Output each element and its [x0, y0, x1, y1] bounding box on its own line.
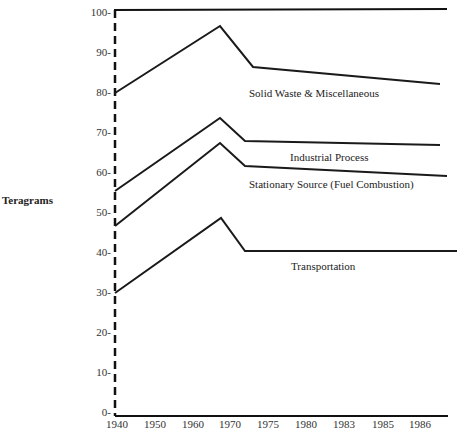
y-tick-90: 90- [71, 46, 111, 58]
y-tick-40: 40- [71, 246, 111, 258]
x-tick-1983: 1983 [326, 418, 362, 430]
y-tick-80: 80- [71, 86, 111, 98]
y-tick-10: 10- [71, 366, 111, 378]
y-tick-0: 0- [71, 406, 111, 418]
y-tick-60: 60- [71, 166, 111, 178]
x-tick-1975: 1975 [250, 418, 286, 430]
chart-canvas [0, 0, 459, 434]
y-tick-100: 100- [71, 6, 111, 18]
top-border-line [114, 9, 447, 10]
y-tick-50: 50- [71, 206, 111, 218]
x-tick-1940: 1940 [99, 418, 135, 430]
y-tick-70: 70- [71, 126, 111, 138]
x-tick-1980: 1980 [288, 418, 324, 430]
label-solid-waste: Solid Waste & Miscellaneous [249, 87, 379, 99]
x-tick-1985: 1985 [365, 418, 401, 430]
x-tick-1986: 1986 [402, 418, 438, 430]
x-tick-1960: 1960 [175, 418, 211, 430]
y-axis-label: Teragrams [2, 194, 53, 206]
y-tick-20: 20- [71, 326, 111, 338]
emissions-chart: Teragrams 100- 90- 80- 70- 60- 50- 40- 3… [0, 0, 459, 434]
series-line-transportation [115, 218, 457, 293]
y-tick-30: 30- [71, 286, 111, 298]
x-tick-1970: 1970 [212, 418, 248, 430]
series-line-solid-waste [115, 26, 440, 93]
x-tick-1950: 1950 [137, 418, 173, 430]
label-industrial-process: Industrial Process [290, 151, 369, 163]
label-stationary-source: Stationary Source (Fuel Combustion) [249, 178, 414, 190]
label-transportation: Transportation [291, 260, 355, 272]
